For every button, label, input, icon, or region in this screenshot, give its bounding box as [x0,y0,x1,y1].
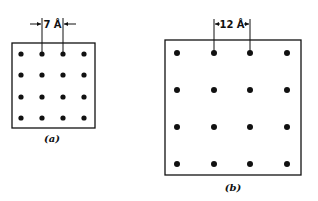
lattice-dot [18,115,23,120]
panel-b-dots [174,50,290,167]
lattice-dot [247,87,253,93]
lattice-dot [247,124,253,130]
lattice-dot [39,94,44,99]
lattice-dot [18,51,23,56]
lattice-dot [174,124,180,130]
lattice-dot [18,72,23,77]
lattice-dot [81,94,86,99]
lattice-dot [60,94,65,99]
lattice-dot [247,161,253,167]
lattice-dot [211,161,217,167]
arrowhead-left-icon [64,22,68,26]
lattice-dot [284,50,290,56]
panel-a-dots [18,51,86,120]
lattice-dot [284,124,290,130]
lattice-dot [284,161,290,167]
lattice-dot [174,87,180,93]
lattice-dot [81,72,86,77]
lattice-dot [284,87,290,93]
lattice-diagram: 7 Å (a) 12 Å (b) [0,0,318,201]
panel-b-caption: (b) [225,182,242,193]
panel-b-spacing-label: 12 Å [219,18,244,30]
arrowhead-right-icon [37,22,41,26]
lattice-dot [211,124,217,130]
lattice-dot [39,72,44,77]
lattice-dot [39,115,44,120]
lattice-dot [81,51,86,56]
panel-a-spacing-label: 7 Å [43,18,61,30]
panel-b-frame [165,40,301,175]
lattice-dot [211,87,217,93]
lattice-dot [60,115,65,120]
lattice-dot [18,94,23,99]
lattice-dot [60,72,65,77]
panel-a: 7 Å (a) [12,18,95,144]
lattice-dot [174,161,180,167]
panel-b: 12 Å (b) [165,18,301,193]
lattice-dot [174,50,180,56]
panel-a-caption: (a) [44,133,60,144]
lattice-dot [81,115,86,120]
